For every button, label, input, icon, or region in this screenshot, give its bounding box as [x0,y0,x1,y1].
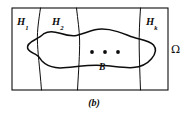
ellipsis-dot-3 [116,50,120,54]
set-label-b: B [99,63,105,73]
ellipsis-dot-1 [90,50,94,54]
region-label-h2: H2 [52,17,64,30]
set-b-outline [28,29,156,68]
ellipsis-dot-2 [103,50,107,54]
region-label-h1: H1 [17,17,29,30]
domain-label-omega: Ω [171,44,180,55]
partition-curve-1 [37,8,41,90]
figure-container: H1 H2 Hk Ω B (b) [0,0,188,113]
domain-rectangle [12,8,168,90]
partition-curve-2 [77,8,80,90]
figure-caption: (b) [0,97,188,108]
region-label-hk: Hk [146,17,158,30]
partition-curve-3 [139,8,140,90]
